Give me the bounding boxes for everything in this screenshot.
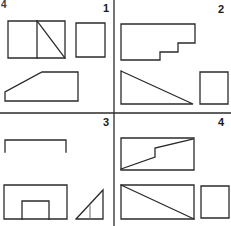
quadrant-label-1: 1 [103, 3, 109, 14]
corner-to-corner-diagonal [121, 185, 194, 219]
geometry-canvas [0, 0, 231, 226]
plain-square-right [200, 72, 228, 104]
right-triangle-left-angle [121, 71, 193, 104]
inner-open-top-rectangle [22, 201, 49, 219]
slanted-trapezoid [5, 72, 78, 101]
quadrant-label-3: 3 [103, 117, 109, 128]
puzzle-figure: 4 1 2 3 4 [0, 0, 231, 226]
rectangle-with-inner-notch [4, 185, 67, 219]
quadrant-label-2: 2 [218, 4, 224, 15]
quadrant-label-4: 4 [218, 117, 224, 128]
step-diagonal-line [121, 139, 193, 169]
plain-square-bottom [201, 186, 229, 218]
quadrant-label-corner: 4 [1, 0, 7, 10]
open-bottom-bracket [5, 140, 66, 152]
staircase-notched-rectangle [121, 24, 195, 60]
plain-square-top [76, 23, 105, 57]
square-triangle-hypotenuse [37, 21, 65, 58]
